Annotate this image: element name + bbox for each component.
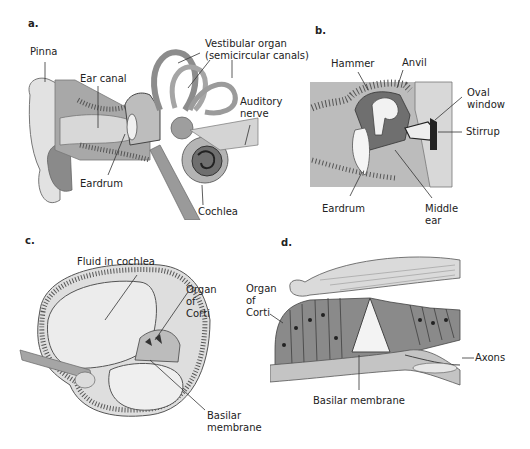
label-axons: Axons: [475, 352, 505, 364]
label-stirrup: Stirrup: [466, 126, 500, 138]
label-anvil: Anvil: [402, 57, 427, 69]
label-eardrum: Eardrum: [80, 178, 123, 190]
panel-a-ear-anatomy: a.: [0, 0, 270, 220]
label-basilar-membrane-d: Basilar membrane: [313, 395, 405, 407]
label-hammer: Hammer: [331, 58, 374, 70]
label-organ-of-corti-c: Organ of Corti: [186, 284, 217, 320]
label-organ-of-corti-d: Organ of Corti: [246, 283, 277, 319]
outer-middle-inner-ear-illustration: [0, 0, 270, 220]
label-pinna: Pinna: [30, 46, 57, 58]
label-ear-canal: Ear canal: [80, 73, 127, 85]
label-fluid-in-cochlea: Fluid in cochlea: [77, 256, 155, 268]
label-cochlea: Cochlea: [198, 206, 238, 218]
panel-c-cochlea-cross-section: c. Fluid in cochlea Organ of Corti Basil…: [0, 220, 270, 449]
label-eardrum-b: Eardrum: [322, 203, 365, 215]
panel-b-middle-ear: b. Hammer Anvil Oval window Stirrup Eard…: [270, 0, 530, 220]
label-oval-window: Oval window: [467, 87, 505, 111]
label-basilar-membrane-c: Basilar membrane: [207, 410, 262, 434]
organ-of-corti-detail-illustration: [270, 220, 530, 449]
panel-d-organ-of-corti: d.: [270, 220, 530, 449]
